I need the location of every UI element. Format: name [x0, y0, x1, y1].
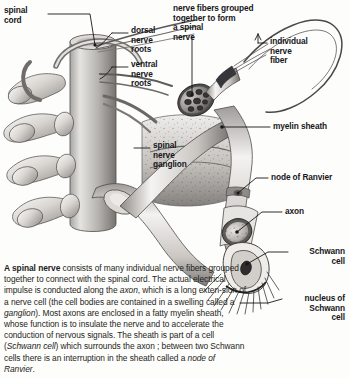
label-schwann-cell: Schwann cell	[309, 247, 345, 266]
caption-body-5: .	[33, 364, 35, 374]
label-ventral-nerve-roots: ventral nerve roots	[131, 60, 158, 89]
label-individual-nerve-fiber: individual nerve fiber	[270, 37, 308, 66]
label-spinal-nerve-ganglion: spinal nerve ganglion	[153, 141, 187, 170]
caption-italic-ganglion: ganglion	[4, 308, 35, 318]
spinal-nerve-figure: spinal cord dorsal nerve roots ventral n…	[0, 0, 349, 378]
caption-italic-schwann-cell: Schwann cell	[7, 341, 56, 351]
label-myelin-sheath: myelin sheath	[273, 122, 327, 132]
label-nerve-fibers-grouped: nerve fibers grouped together to form a …	[173, 4, 254, 42]
label-node-of-ranvier: node of Ranvier	[271, 173, 332, 183]
label-spinal-cord: spinal cord	[4, 6, 27, 25]
label-dorsal-nerve-roots: dorsal nerve roots	[131, 26, 155, 55]
label-axon: axon	[285, 207, 304, 217]
label-nucleus-of-schwann-cell: nucleus of Schwann cell	[305, 294, 346, 323]
caption-paragraph: A spinal nerve consists of many individu…	[4, 263, 248, 375]
caption-lead: A spinal nerve	[4, 263, 60, 273]
caption-italic-axon: axon	[120, 285, 138, 295]
individual-nerve-fiber-loop	[244, 20, 342, 112]
